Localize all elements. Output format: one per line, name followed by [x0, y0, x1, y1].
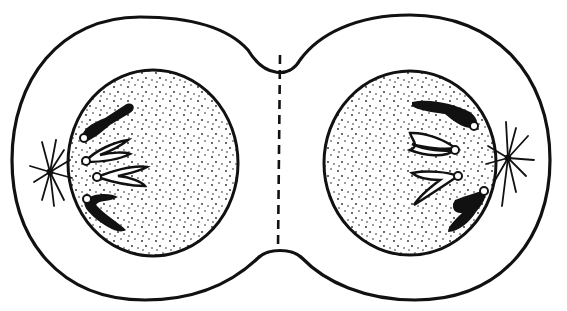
right-daughter-nucleus: [324, 71, 496, 255]
left-daughter-nucleus: [68, 70, 238, 256]
cell-division-diagram: [0, 0, 567, 311]
